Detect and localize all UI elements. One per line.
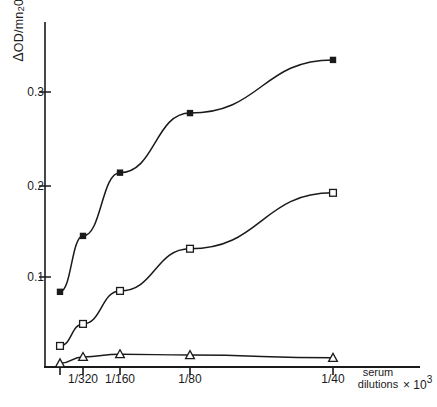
open-square-marker bbox=[80, 321, 87, 328]
filled-square-marker bbox=[117, 169, 123, 175]
open-triangle-series-line bbox=[60, 354, 333, 363]
open-square-marker bbox=[117, 288, 124, 295]
filled-square-series-line bbox=[60, 60, 333, 292]
open-square-marker bbox=[57, 343, 64, 350]
chart-figure: ΔOD/mn20 0.3 0.2 0.1 1/320 1/160 1/80 1/… bbox=[0, 0, 437, 407]
filled-square-marker bbox=[57, 289, 63, 295]
open-square-series-line bbox=[60, 193, 333, 346]
open-square-marker bbox=[187, 245, 194, 252]
filled-square-marker bbox=[80, 233, 86, 239]
series-filled-square bbox=[57, 57, 336, 295]
open-square-marker bbox=[330, 189, 337, 196]
filled-square-marker bbox=[187, 110, 193, 116]
filled-square-marker bbox=[330, 57, 336, 63]
plot-area bbox=[0, 0, 437, 407]
series-open-triangle bbox=[56, 350, 338, 367]
